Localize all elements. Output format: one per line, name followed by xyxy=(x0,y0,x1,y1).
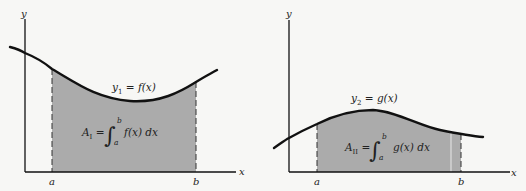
left-y-axis-label: y xyxy=(20,8,27,19)
right-shaded-area xyxy=(317,110,461,172)
svg-text:a: a xyxy=(114,138,118,147)
svg-text:a: a xyxy=(379,153,383,162)
right-x-axis-label: x xyxy=(511,167,517,178)
svg-text:g(x) dx: g(x) dx xyxy=(393,141,430,153)
right-curve-label: y2 = g(x) xyxy=(350,92,398,107)
left-x-axis-label: x xyxy=(239,166,245,177)
left-tick-a: a xyxy=(49,176,55,187)
right-tick-b: b xyxy=(458,176,464,187)
left-tick-b: b xyxy=(193,176,199,187)
right-panel: y x a b y2 = g(x) AII = ∫ b a g(x) dx xyxy=(274,8,517,187)
svg-text:f(x) dx: f(x) dx xyxy=(123,126,158,138)
svg-text:b: b xyxy=(382,132,387,141)
left-panel: y x a b y1 = f(x) AI = ∫ b a f(x) dx xyxy=(10,8,245,187)
right-tick-a: a xyxy=(314,176,320,187)
left-curve-label: y1 = f(x) xyxy=(111,81,156,96)
right-y-axis-label: y xyxy=(285,8,292,19)
svg-text:b: b xyxy=(117,116,122,125)
diagram-svg: y x a b y1 = f(x) AI = ∫ b a f(x) dx xyxy=(0,0,526,191)
integral-area-diagram: y x a b y1 = f(x) AI = ∫ b a f(x) dx xyxy=(0,0,526,191)
